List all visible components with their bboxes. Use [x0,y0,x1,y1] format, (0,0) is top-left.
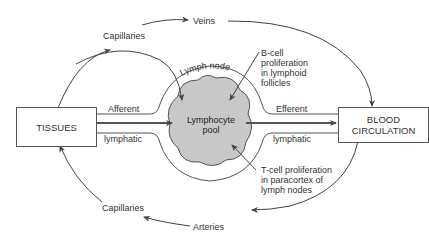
bcell-proliferation-label: B-cell proliferation in lymphoid follicl… [261,48,308,88]
afferent-label: Afferent [108,104,139,114]
efferent-lymphatic-label: lymphatic [273,134,311,144]
tissues-label: TISSUES [36,122,77,133]
tcell-proliferation-label: T-cell proliferation in paracortex of ly… [261,165,332,195]
capillaries-top-label: Capillaries [103,31,145,41]
veins-label: Veins [193,16,215,26]
efferent-label: Efferent [276,104,307,114]
blood-circulation-box: BLOOD CIRCULATION [338,107,429,143]
lymph-node-label: Lymph node [178,60,231,77]
arteries-label: Arteries [193,222,224,232]
capillaries-bottom-label: Capillaries [102,203,144,213]
afferent-lymphatic-label: lymphatic [104,134,142,144]
blood-label-line1: BLOOD [367,114,400,125]
lymphocyte-pool-label: Lymphocyte pool [180,115,242,135]
blood-label-line2: CIRCULATION [352,125,416,136]
tissues-box: TISSUES [16,107,97,147]
